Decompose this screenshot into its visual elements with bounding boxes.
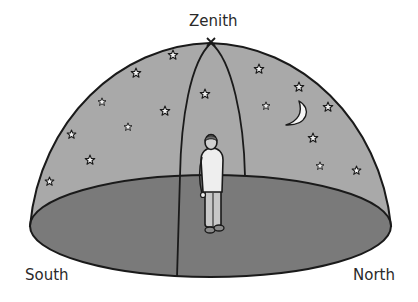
celestial-sphere-svg	[0, 0, 418, 302]
north-label: North	[353, 266, 395, 284]
south-label: South	[25, 266, 69, 284]
zenith-label: Zenith	[189, 12, 238, 30]
celestial-sphere-diagram: Zenith South North	[0, 0, 418, 302]
